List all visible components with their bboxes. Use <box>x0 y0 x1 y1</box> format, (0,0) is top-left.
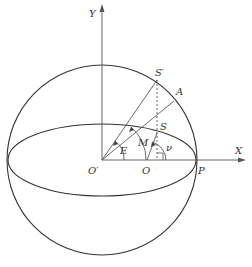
angle-arrow-m <box>129 127 134 132</box>
line-oprime-sprime <box>102 80 157 160</box>
label-o: O <box>142 165 150 176</box>
label-y-axis: Y <box>89 8 97 19</box>
label-o-prime: O′ <box>88 165 99 176</box>
orbital-anomaly-diagram: Y X S′ A S O′ O P E M ν <box>0 0 252 267</box>
y-axis-arrow <box>100 4 105 12</box>
label-a: A <box>175 86 183 97</box>
right-angle-mark <box>157 153 163 160</box>
label-angle-m: M <box>137 137 149 148</box>
label-angle-e: E <box>119 145 128 156</box>
label-s-prime: S′ <box>155 67 165 78</box>
label-p: P <box>197 165 205 176</box>
label-angle-nu: ν <box>166 142 172 153</box>
label-s: S <box>160 121 167 132</box>
x-axis-arrow <box>238 158 246 163</box>
label-x-axis: X <box>234 145 243 156</box>
